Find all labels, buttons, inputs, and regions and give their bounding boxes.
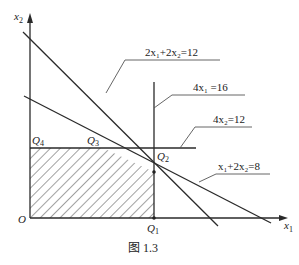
label-4x2-12: 4x₂=12	[213, 113, 245, 125]
y-axis-label: x2	[13, 10, 23, 25]
x-axis-label: x1	[283, 219, 293, 234]
feasible-region-diagram: 2x₁+2x₂=12 4x₁ =16 4x₂=12 x₁+2x₂=8 x2 x1…	[0, 0, 299, 265]
vertex-q2-dot	[152, 170, 156, 174]
vertex-q1-dot	[152, 216, 156, 220]
vertex-q3-label: Q3	[87, 134, 99, 148]
origin-label: O	[18, 213, 26, 225]
leader-4x1-16	[154, 95, 245, 108]
leader-4x2-12	[180, 127, 252, 148]
leader-x1-2x2-8	[199, 174, 270, 182]
label-4x1-16: 4x₁ =16	[193, 81, 228, 93]
vertex-q2-label: Q2	[157, 150, 169, 164]
label-2x1-2x2-12: 2x₁+2x₂=12	[145, 46, 198, 58]
feasible-region	[30, 148, 154, 218]
linear-programming-figure: 2x₁+2x₂=12 4x₁ =16 4x₂=12 x₁+2x₂=8 x2 x1…	[0, 0, 299, 265]
figure-caption: 图 1.3	[128, 241, 158, 255]
vertex-q1-label: Q1	[147, 222, 159, 236]
label-x1-2x2-8: x₁+2x₂=8	[218, 160, 261, 172]
vertex-q4-label: Q4	[32, 134, 44, 148]
y-axis-arrow-icon	[27, 13, 33, 23]
